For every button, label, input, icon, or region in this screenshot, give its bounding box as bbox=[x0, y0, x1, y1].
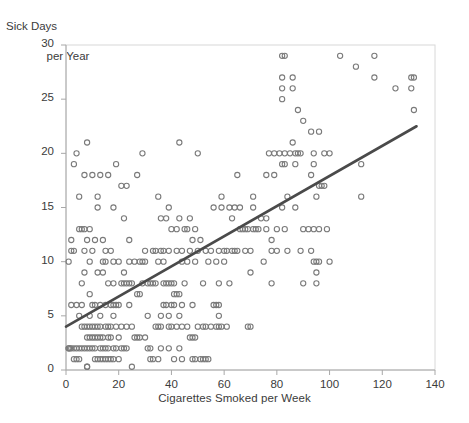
data-point bbox=[287, 151, 292, 156]
data-point bbox=[111, 313, 116, 318]
data-point bbox=[293, 205, 298, 210]
trend-line-segment bbox=[66, 126, 417, 326]
data-point bbox=[174, 324, 179, 329]
data-point bbox=[280, 75, 285, 80]
data-point bbox=[145, 313, 150, 318]
data-point bbox=[179, 324, 184, 329]
data-point bbox=[195, 324, 200, 329]
data-point bbox=[306, 227, 311, 232]
data-point bbox=[142, 248, 147, 253]
data-point bbox=[179, 248, 184, 253]
data-point bbox=[290, 86, 295, 91]
data-point bbox=[84, 237, 89, 242]
data-point bbox=[311, 151, 316, 156]
data-point bbox=[116, 335, 121, 340]
data-point bbox=[166, 313, 171, 318]
data-point bbox=[311, 227, 316, 232]
data-point bbox=[235, 172, 240, 177]
data-point bbox=[269, 281, 274, 286]
data-point bbox=[193, 227, 198, 232]
data-point bbox=[124, 324, 129, 329]
data-point bbox=[227, 205, 232, 210]
data-point bbox=[74, 151, 79, 156]
data-point bbox=[161, 259, 166, 264]
data-point bbox=[87, 292, 92, 297]
data-point bbox=[84, 140, 89, 145]
data-point bbox=[409, 86, 414, 91]
y-tick-label: 0 bbox=[24, 362, 54, 374]
data-point bbox=[69, 237, 74, 242]
data-point bbox=[87, 227, 92, 232]
x-tick-label: 100 bbox=[312, 378, 348, 390]
scatter-chart: Sick Days per Year 051015202530 02040608… bbox=[0, 0, 469, 423]
data-point bbox=[274, 227, 279, 232]
data-point bbox=[327, 259, 332, 264]
data-point bbox=[179, 302, 184, 307]
data-point bbox=[301, 227, 306, 232]
data-point bbox=[193, 259, 198, 264]
data-point bbox=[179, 357, 184, 362]
data-point bbox=[121, 270, 126, 275]
data-point bbox=[158, 313, 163, 318]
data-point bbox=[79, 281, 84, 286]
data-point bbox=[251, 205, 256, 210]
data-point bbox=[272, 172, 277, 177]
x-tick-label: 80 bbox=[259, 378, 295, 390]
data-point bbox=[95, 194, 100, 199]
data-point bbox=[127, 237, 132, 242]
data-point bbox=[324, 227, 329, 232]
x-axis-title: Cigarettes Smoked per Week bbox=[0, 392, 469, 404]
data-point bbox=[127, 302, 132, 307]
data-point bbox=[237, 205, 242, 210]
data-point bbox=[132, 259, 137, 264]
data-point bbox=[100, 237, 105, 242]
trend-line bbox=[66, 126, 417, 326]
data-point bbox=[77, 194, 82, 199]
x-tick-label: 0 bbox=[48, 378, 84, 390]
data-point bbox=[166, 205, 171, 210]
data-point bbox=[158, 216, 163, 221]
data-point bbox=[113, 162, 118, 167]
data-point bbox=[156, 357, 161, 362]
data-point bbox=[316, 227, 321, 232]
y-tick-label: 25 bbox=[24, 91, 54, 103]
x-tick-label: 140 bbox=[417, 378, 453, 390]
data-point bbox=[108, 248, 113, 253]
data-point bbox=[309, 172, 314, 177]
data-point bbox=[90, 172, 95, 177]
data-point bbox=[290, 75, 295, 80]
data-point bbox=[187, 216, 192, 221]
data-point bbox=[140, 151, 145, 156]
data-point bbox=[174, 248, 179, 253]
data-point bbox=[411, 107, 416, 112]
data-point bbox=[106, 172, 111, 177]
data-point bbox=[314, 194, 319, 199]
data-point bbox=[119, 183, 124, 188]
x-tick-label: 60 bbox=[206, 378, 242, 390]
data-point bbox=[219, 205, 224, 210]
data-point bbox=[359, 162, 364, 167]
data-point bbox=[293, 162, 298, 167]
data-point bbox=[164, 216, 169, 221]
data-point bbox=[95, 270, 100, 275]
data-point bbox=[372, 53, 377, 58]
data-point bbox=[79, 302, 84, 307]
data-point bbox=[135, 172, 140, 177]
data-point bbox=[142, 335, 147, 340]
data-point bbox=[158, 346, 163, 351]
data-point bbox=[248, 248, 253, 253]
data-point bbox=[124, 183, 129, 188]
data-point bbox=[166, 346, 171, 351]
data-point bbox=[100, 270, 105, 275]
data-point bbox=[82, 270, 87, 275]
data-point bbox=[264, 172, 269, 177]
data-point bbox=[280, 97, 285, 102]
data-point bbox=[127, 259, 132, 264]
data-point bbox=[272, 151, 277, 156]
data-point bbox=[166, 248, 171, 253]
data-point bbox=[269, 248, 274, 253]
data-point bbox=[216, 313, 221, 318]
data-point bbox=[190, 302, 195, 307]
data-point bbox=[198, 237, 203, 242]
data-point bbox=[290, 140, 295, 145]
